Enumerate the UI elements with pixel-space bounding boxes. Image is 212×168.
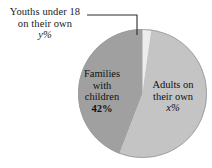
slice-label-youths: Youths under 18 on their own y%: [2, 6, 88, 41]
slice-label-youths-line2: on their own: [2, 18, 88, 30]
slice-label-adults-line1: Adults on: [142, 79, 204, 91]
pie-chart-figure: Youths under 18 on their own y% Families…: [0, 0, 212, 168]
slice-value-youths: y%: [2, 29, 88, 41]
slice-value-adults: x%: [142, 102, 204, 114]
slice-value-families: 42%: [73, 103, 131, 115]
slice-label-adults: Adults on their own x%: [142, 79, 204, 114]
slice-label-adults-line2: their own: [142, 91, 204, 103]
slice-label-youths-line1: Youths under 18: [2, 6, 88, 18]
slice-label-families-line1: Families: [73, 68, 131, 80]
slice-label-families-line3: children: [73, 91, 131, 103]
slice-label-families-line2: with: [73, 80, 131, 92]
slice-label-families: Families with children 42%: [73, 68, 131, 114]
